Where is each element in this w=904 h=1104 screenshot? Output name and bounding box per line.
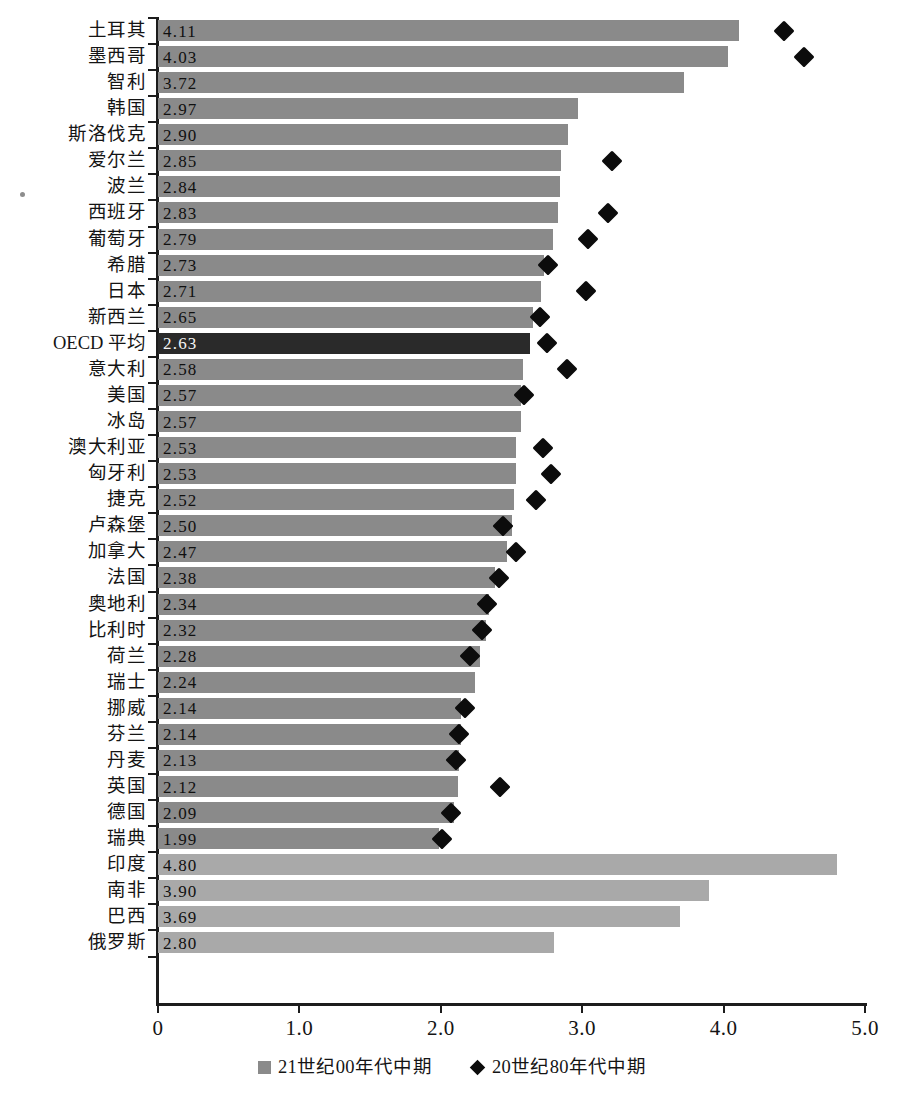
bar: 3.72 [158,72,684,93]
bar: 2.58 [158,359,523,380]
diamond-marker [794,46,815,67]
bar-value-label: 2.80 [163,934,198,951]
category-label: 匈牙利 [0,464,146,483]
diamond-marker [577,228,598,249]
category-label: 新西兰 [0,308,146,327]
category-label: 韩国 [0,99,146,118]
bar-value-label: 2.97 [163,100,198,117]
category-label: 丹麦 [0,751,146,770]
y-axis-tick [148,695,157,697]
bar: 1.99 [158,828,439,849]
bar-value-label: 1.99 [163,830,198,847]
category-label: 俄罗斯 [0,933,146,952]
y-axis-tick [148,929,157,931]
bar: 2.52 [158,489,514,510]
y-axis-tick [148,799,157,801]
y-axis-tick [148,669,157,671]
bar-value-label: 2.32 [163,622,198,639]
bar: 2.50 [158,515,512,536]
bar-value-label: 2.12 [163,778,198,795]
bar: 2.57 [158,385,521,406]
diamond-marker [540,463,561,484]
legend-item-marker: 20世纪80年代中期 [470,1058,646,1077]
category-label: 西班牙 [0,203,146,222]
x-axis-tick [581,1003,583,1013]
category-label: 日本 [0,282,146,301]
legend-label-bar: 21世纪00年代中期 [278,1058,432,1077]
y-axis-tick [148,747,157,749]
y-axis-tick [148,356,157,358]
bar-value-label: 2.24 [163,674,198,691]
y-axis-tick [148,877,157,879]
y-axis-tick [148,460,157,462]
legend-item-bar: 21世纪00年代中期 [258,1058,432,1077]
x-axis-tick-label: 0 [153,1018,164,1039]
diamond-marker [774,20,795,41]
bar: 2.65 [158,307,533,328]
y-axis-tick [148,903,157,905]
x-axis-line [156,1003,867,1006]
bar: 2.32 [158,620,486,641]
y-axis-tick [148,278,157,280]
bar-value-label: 2.79 [163,231,198,248]
diamond-marker [505,541,526,562]
bar: 2.53 [158,463,516,484]
x-axis-tick [440,1003,442,1013]
bar-value-label: 2.34 [163,596,198,613]
diamond-marker [576,281,597,302]
y-axis-tick [148,434,157,436]
category-label: 英国 [0,777,146,796]
y-axis-tick [148,643,157,645]
y-axis-tick [148,17,157,19]
bar: 2.84 [158,176,560,197]
x-axis-tick [157,1003,159,1013]
category-label: 土耳其 [0,21,146,40]
y-axis-tick [148,825,157,827]
y-axis-tick [148,512,157,514]
y-axis-tick [148,956,157,958]
y-axis-tick [148,304,157,306]
x-axis-tick [298,1003,300,1013]
bar-value-label: 2.14 [163,700,198,717]
bar-value-label: 2.14 [163,726,198,743]
category-label: 奥地利 [0,595,146,614]
category-label: 澳大利亚 [0,438,146,457]
category-label: 巴西 [0,907,146,926]
bar: 2.63 [158,333,530,354]
category-label: 芬兰 [0,725,146,744]
diamond-marker [525,489,546,510]
bar: 2.12 [158,776,458,797]
bar-value-label: 4.03 [163,48,198,65]
category-label: 墨西哥 [0,47,146,66]
category-label: 葡萄牙 [0,230,146,249]
bar-value-label: 2.57 [163,413,198,430]
category-label: 智利 [0,73,146,92]
bar: 2.13 [158,750,459,771]
y-axis-tick [148,147,157,149]
bar-value-label: 2.65 [163,309,198,326]
category-label: 瑞士 [0,673,146,692]
diamond-marker [556,359,577,380]
diamond-marker [490,776,511,797]
category-label: 冰岛 [0,412,146,431]
bar: 2.80 [158,932,554,953]
y-axis-tick [148,173,157,175]
bar: 2.73 [158,255,544,276]
y-axis-tick [148,252,157,254]
bar-value-label: 2.38 [163,569,198,586]
bar: 3.90 [158,880,709,901]
bar: 2.85 [158,150,561,171]
diamond-swatch-icon [470,1059,486,1075]
x-axis-tick-label: 5.0 [851,1018,879,1039]
bar: 2.47 [158,541,507,562]
bar: 2.53 [158,437,516,458]
category-label: 比利时 [0,621,146,640]
x-axis-tick [864,1003,866,1013]
bar-value-label: 2.57 [163,387,198,404]
category-label: 挪威 [0,699,146,718]
y-axis-tick [148,199,157,201]
bar-value-label: 3.90 [163,882,198,899]
x-axis-tick-label: 1.0 [286,1018,314,1039]
y-axis-tick [148,591,157,593]
diamond-marker [536,333,557,354]
